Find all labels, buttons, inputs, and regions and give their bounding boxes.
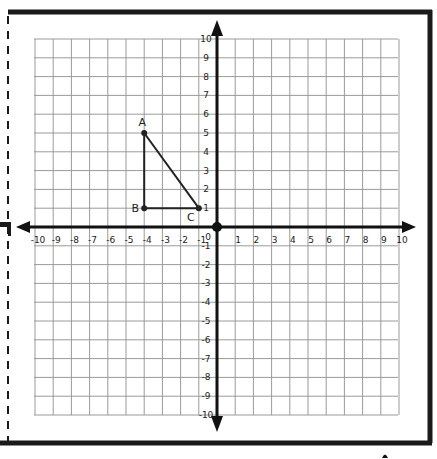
axes (16, 20, 416, 432)
point-B (141, 205, 147, 211)
x-tick-label: 5 (308, 235, 314, 245)
y-tick-label: -6 (202, 335, 211, 345)
y-tick-label: -2 (202, 260, 211, 270)
x-tick-label: -10 (31, 235, 46, 245)
y-tick-label: 7 (203, 90, 209, 100)
y-tick-label: -10 (199, 410, 214, 420)
frame-left-tab-stub (8, 222, 11, 236)
point-label-C: C (187, 211, 195, 224)
x-tick-label: -2 (179, 235, 188, 245)
y-tick-label: 3 (203, 166, 209, 176)
y-tick-label: 2 (203, 184, 209, 194)
x-tick-label: 8 (363, 235, 369, 245)
point-label-A: A (138, 116, 146, 129)
y-tick-label: -4 (202, 297, 211, 307)
arrow-right-icon (402, 221, 416, 233)
corner-mark-icon (382, 455, 388, 459)
y-tick-label: 6 (203, 109, 209, 119)
x-tick-label: -7 (88, 235, 97, 245)
x-tick-label: -9 (52, 235, 61, 245)
x-tick-label: 3 (272, 235, 278, 245)
y-tick-label: -5 (202, 316, 211, 326)
x-tick-label: -4 (143, 235, 152, 245)
origin-label: 0 (205, 232, 211, 242)
x-tick-label: 2 (254, 235, 260, 245)
x-tick-label: 10 (396, 235, 408, 245)
x-tick-label: -8 (70, 235, 79, 245)
arrow-up-icon (211, 20, 223, 36)
x-tick-label: 6 (326, 235, 332, 245)
x-tick-label: 4 (290, 235, 296, 245)
y-tick-label: 8 (203, 72, 209, 82)
y-tick-label: 1 (203, 203, 209, 213)
y-tick-label: 4 (203, 147, 209, 157)
y-tick-label: -3 (202, 278, 211, 288)
y-tick-label: 9 (203, 53, 209, 63)
x-tick-label: -3 (161, 235, 170, 245)
x-tick-label: -6 (106, 235, 115, 245)
y-tick-label: 5 (203, 128, 209, 138)
point-A (141, 130, 147, 136)
x-tick-label: 1 (235, 235, 241, 245)
y-tick-label: -8 (202, 372, 211, 382)
x-tick-label: -5 (125, 235, 134, 245)
coordinate-plane: -10-9-8-7-6-5-4-3-2-11234567891010987654… (0, 0, 437, 459)
y-tick-label: -9 (202, 391, 211, 401)
origin-dot (212, 222, 222, 232)
x-tick-label: 7 (345, 235, 351, 245)
point-label-B: B (131, 202, 139, 215)
x-tick-label: 9 (381, 235, 387, 245)
y-tick-label: 10 (200, 34, 212, 44)
y-tick-label: -7 (202, 354, 211, 364)
point-C (196, 205, 202, 211)
arrow-left-icon (16, 221, 30, 233)
y-tick-label: -1 (202, 241, 211, 251)
